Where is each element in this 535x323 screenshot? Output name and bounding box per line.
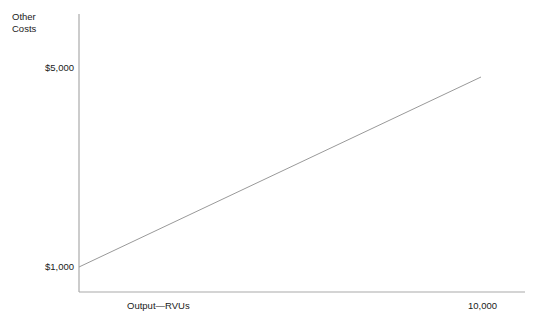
cost-behavior-chart: OtherCosts $5,000 $1,000 Output—RVUs 10,… xyxy=(0,0,535,323)
cost-function-line xyxy=(79,77,481,267)
plot-area xyxy=(0,0,535,323)
